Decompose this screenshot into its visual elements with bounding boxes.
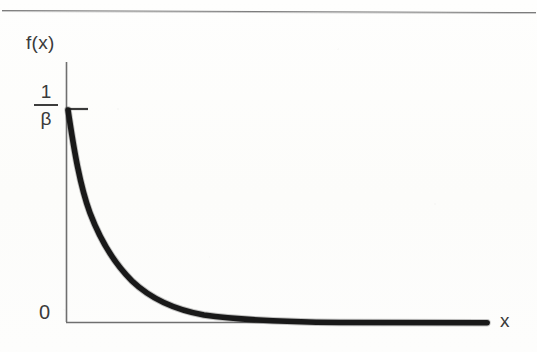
- x-axis-label: x: [500, 311, 510, 330]
- fraction-numerator: 1: [31, 82, 61, 102]
- plot-area: [0, 0, 537, 352]
- exponential-density-curve: [68, 110, 487, 323]
- y-axis-label: f(x): [26, 33, 55, 52]
- curve-ink-bleed: [68, 110, 487, 323]
- origin-label-zero: 0: [39, 302, 50, 322]
- fraction-denominator: β: [31, 108, 61, 129]
- figure-canvas: f(x) 1 β 0 x: [0, 0, 537, 352]
- fraction-bar: [34, 104, 58, 106]
- y-tick-label-one-over-beta: 1 β: [31, 82, 61, 129]
